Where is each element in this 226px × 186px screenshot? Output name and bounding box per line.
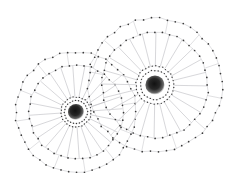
hub-inner-ring-node bbox=[166, 76, 167, 77]
hub-outer-ring-node bbox=[157, 103, 158, 104]
outer-rim-node bbox=[16, 112, 18, 114]
outer-rim-node bbox=[112, 137, 114, 139]
hub-outer-ring-node bbox=[60, 113, 61, 114]
outer-rim-node bbox=[20, 89, 22, 91]
outer-rim-node bbox=[188, 141, 190, 143]
inner-rim-node bbox=[120, 45, 122, 47]
inner-rim-node bbox=[183, 129, 185, 131]
hub-outer-ring-node bbox=[86, 121, 87, 122]
hub-inner-ring-node bbox=[148, 72, 149, 73]
hub-outer-ring-node bbox=[158, 66, 159, 67]
wheel-graph-svg bbox=[0, 0, 226, 186]
hub-inner-ring-node bbox=[65, 106, 66, 107]
inner-rim-node bbox=[114, 49, 116, 51]
outer-rim-node bbox=[159, 17, 161, 19]
hub-outer-ring-node bbox=[69, 125, 70, 126]
hub-outer-ring-node bbox=[155, 65, 156, 66]
outer-rim-node bbox=[24, 141, 26, 143]
inner-rim-node bbox=[42, 77, 44, 79]
inner-rim-node bbox=[101, 84, 103, 86]
hub-outer-ring-node bbox=[145, 68, 146, 69]
hub-inner-ring-node bbox=[159, 98, 160, 99]
inner-rim-node bbox=[139, 34, 141, 36]
inner-rim-node bbox=[121, 97, 123, 99]
hub-inner-ring-node bbox=[84, 119, 85, 120]
hub-outer-ring-node bbox=[148, 66, 149, 67]
outer-rim-node bbox=[101, 42, 103, 44]
outer-rim-node bbox=[215, 112, 217, 114]
outer-rim-node bbox=[181, 145, 183, 147]
hub-inner-ring-node bbox=[83, 103, 84, 104]
hub-inner-ring-node bbox=[69, 102, 70, 103]
inner-rim-node bbox=[203, 106, 205, 108]
outer-rim-node bbox=[212, 50, 214, 52]
hub-inner-ring-node bbox=[87, 111, 88, 112]
inner-rim-node bbox=[119, 125, 121, 127]
hub-outer-ring-node bbox=[173, 83, 174, 84]
outer-rim-node bbox=[202, 132, 204, 134]
inner-rim-node bbox=[31, 125, 33, 127]
outer-rim-node bbox=[123, 74, 125, 76]
hub-inner-ring-node bbox=[142, 76, 143, 77]
inner-rim-node bbox=[37, 83, 39, 85]
hub-outer-ring-node bbox=[138, 75, 139, 76]
hub-inner-ring-node bbox=[164, 73, 165, 74]
hub-outer-ring-node bbox=[171, 94, 172, 95]
hub-inner-ring-node bbox=[72, 100, 73, 101]
hub-outer-ring-node bbox=[88, 119, 89, 120]
outer-rim-node bbox=[100, 126, 102, 128]
outer-rim-node bbox=[221, 81, 223, 83]
inner-rim-node bbox=[118, 90, 120, 92]
outer-rim-node bbox=[97, 49, 99, 51]
outer-rim-node bbox=[135, 111, 137, 113]
outer-rim-node bbox=[206, 126, 208, 128]
hub-outer-ring-node bbox=[84, 99, 85, 100]
outer-rim-node bbox=[126, 146, 128, 148]
inner-rim-node bbox=[154, 32, 156, 34]
outer-rim-node bbox=[196, 31, 198, 33]
outer-rim-node bbox=[105, 58, 107, 60]
hub-inner-ring-node bbox=[140, 82, 141, 83]
hub-outer-ring-node bbox=[75, 126, 76, 127]
outer-rim-node bbox=[94, 56, 96, 58]
outer-rim-node bbox=[52, 56, 54, 58]
spoke-line bbox=[175, 85, 208, 86]
spoke-line bbox=[155, 33, 156, 66]
hub-inner-ring-node bbox=[85, 105, 86, 106]
outer-rim-node bbox=[17, 96, 19, 98]
inner-rim-node bbox=[34, 89, 36, 91]
inner-rim-node bbox=[189, 124, 191, 126]
hub-outer-ring-node bbox=[79, 97, 80, 98]
hub-outer-ring-node bbox=[147, 102, 148, 103]
outer-rim-node bbox=[99, 167, 101, 169]
inner-rim-node bbox=[30, 96, 32, 98]
outer-rim-node bbox=[218, 65, 220, 67]
hub-outer-ring-node bbox=[136, 85, 137, 86]
outer-rim-node bbox=[98, 56, 100, 58]
hub-inner-ring-node bbox=[67, 104, 68, 105]
hub-outer-ring-node bbox=[136, 89, 137, 90]
inner-rim-node bbox=[76, 64, 78, 66]
outer-rim-node bbox=[84, 171, 86, 173]
hub-inner-ring-node bbox=[141, 89, 142, 90]
outer-rim-node bbox=[107, 36, 109, 38]
hub-outer-ring-node bbox=[67, 99, 68, 100]
hub-inner-ring-node bbox=[73, 123, 74, 124]
inner-rim-node bbox=[55, 70, 57, 72]
hub-outer-ring-node bbox=[90, 116, 91, 117]
hub-outer-ring-node bbox=[172, 90, 173, 91]
hub-outer-ring-node bbox=[161, 103, 162, 104]
outer-rim-node bbox=[150, 150, 152, 152]
inner-rim-node bbox=[28, 110, 30, 112]
hub-outer-ring-node bbox=[165, 69, 166, 70]
outer-rim-node bbox=[106, 163, 108, 165]
inner-rim-node bbox=[74, 158, 76, 160]
hub-outer-ring-node bbox=[84, 123, 85, 124]
outer-rim-node bbox=[195, 137, 197, 139]
hub-outer-ring-node bbox=[135, 82, 136, 83]
inner-rim-node bbox=[205, 99, 207, 101]
hub-inner-ring-node bbox=[70, 122, 71, 123]
inner-rim-node bbox=[109, 113, 111, 115]
outer-rim-node bbox=[68, 171, 70, 173]
hub-inner-ring-node bbox=[81, 101, 82, 102]
